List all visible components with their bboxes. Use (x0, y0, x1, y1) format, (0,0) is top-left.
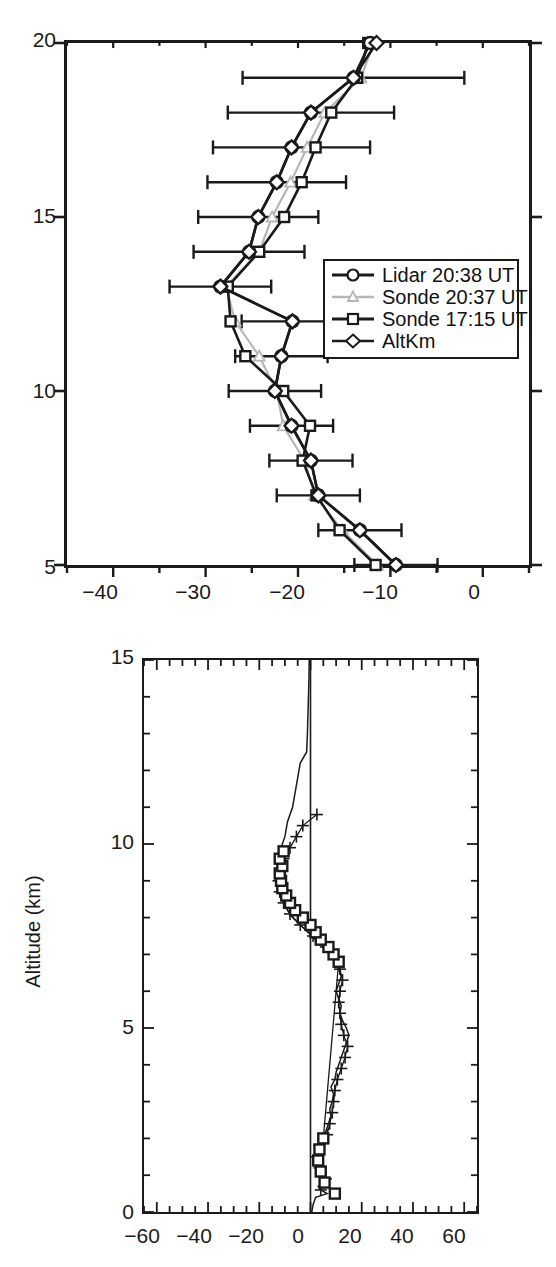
legend-sample-diamond (330, 331, 376, 351)
legend-item-sonde-1715[interactable]: Sonde 17:15 UT (330, 308, 511, 330)
legend-sample-triangle (330, 287, 376, 307)
lower-xtick-20: 20 (321, 1224, 379, 1248)
upper-xtick-n20: −20 (257, 580, 317, 604)
lower-xtick-n60: −60 (113, 1224, 171, 1248)
upper-panel: 20 15 10 5 −40 −30 −20 −10 0 Lidar 20:38… (0, 0, 556, 612)
lower-ytick-0: 0 (88, 1200, 134, 1224)
upper-xtick-n10: −10 (350, 580, 410, 604)
lower-xtick-n40: −40 (165, 1224, 223, 1248)
legend-label-sonde-2037: Sonde 20:37 UT (376, 286, 528, 309)
lower-ytick-10: 10 (88, 830, 134, 854)
upper-ytick-10: 10 (6, 379, 56, 403)
lower-xtick-60: 60 (425, 1224, 483, 1248)
lower-xtick-0: 0 (269, 1224, 327, 1248)
upper-ytick-20: 20 (6, 28, 56, 52)
upper-ytick-15: 15 (6, 204, 56, 228)
upper-xtick-0: 0 (444, 580, 504, 604)
legend-label-sonde-1715: Sonde 17:15 UT (376, 308, 528, 331)
lower-xtick-n20: −20 (217, 1224, 275, 1248)
legend-item-altkm[interactable]: AltKm (330, 330, 511, 352)
upper-ytick-5: 5 (6, 555, 56, 579)
lower-ytick-5: 5 (88, 1015, 134, 1039)
legend-item-lidar[interactable]: Lidar 20:38 UT (330, 264, 511, 286)
upper-legend: Lidar 20:38 UT Sonde 20:37 UT Sonde 17:1… (323, 259, 519, 359)
legend-label-altkm: AltKm (376, 330, 435, 353)
upper-xtick-n40: −40 (70, 580, 130, 604)
upper-xtick-n30: −30 (163, 580, 223, 604)
legend-item-sonde-2037[interactable]: Sonde 20:37 UT (330, 286, 511, 308)
figure-root: 20 15 10 5 −40 −30 −20 −10 0 Lidar 20:38… (0, 0, 556, 1267)
lower-ytick-15: 15 (88, 645, 134, 669)
lower-panel: Altitude (km) 15 10 5 0 −60 −40 −20 0 20… (0, 620, 556, 1267)
legend-sample-square (330, 309, 376, 329)
legend-sample-circle (330, 265, 376, 285)
legend-label-lidar: Lidar 20:38 UT (376, 264, 514, 287)
lower-xtick-40: 40 (373, 1224, 431, 1248)
lower-axis-ticks (142, 658, 482, 1218)
lower-ylabel: Altitude (km) (22, 852, 45, 1012)
